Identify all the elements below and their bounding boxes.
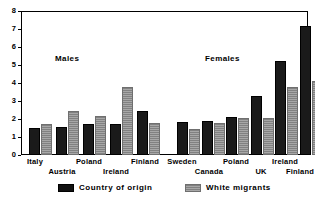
bar-country-of-origin: [110, 124, 121, 156]
bar-white-migrants: [149, 123, 160, 155]
y-tick-label: 8: [12, 7, 16, 15]
bar-group: [110, 11, 134, 155]
panel-label-females: Females: [205, 54, 240, 63]
bar-white-migrants: [287, 87, 298, 155]
x-axis-labels: ItalyAustriaPolandIrelandFinlandSwedenCa…: [0, 156, 315, 178]
legend-swatch-migrant: [185, 184, 201, 192]
bar-white-migrants: [263, 118, 274, 155]
y-tick-label: 3: [12, 97, 16, 105]
bars-container: [22, 11, 307, 155]
x-axis-label: Ireland: [272, 157, 298, 166]
bar-group: [251, 11, 275, 155]
legend-item: Country of origin: [58, 183, 152, 192]
y-tick-label: 5: [12, 61, 16, 69]
bar-white-migrants: [41, 124, 52, 156]
bar-group: [29, 11, 53, 155]
bar-white-migrants: [95, 116, 106, 155]
panel-label-males: Males: [55, 54, 79, 63]
bar-country-of-origin: [251, 96, 262, 155]
bar-white-migrants: [68, 111, 79, 155]
bar-country-of-origin: [202, 121, 213, 155]
legend-label: Country of origin: [79, 183, 152, 192]
x-axis-label: Poland: [223, 157, 249, 166]
bar-country-of-origin: [177, 122, 188, 155]
bar-group: [177, 11, 201, 155]
y-tick-label: 7: [12, 25, 16, 33]
bar-group: [300, 11, 316, 155]
x-axis-label: Austria: [48, 167, 75, 176]
x-axis-label: Sweden: [167, 157, 197, 166]
x-axis-label: Finland: [131, 157, 159, 166]
x-axis-label: Ireland: [103, 167, 129, 176]
y-tick-label: 6: [12, 43, 16, 51]
bar-white-migrants: [214, 123, 225, 155]
y-tick-label: 4: [12, 79, 16, 87]
bar-white-migrants: [122, 87, 133, 155]
y-axis: 876543210: [0, 4, 19, 162]
bar-country-of-origin: [29, 128, 40, 155]
bar-country-of-origin: [275, 61, 286, 155]
bar-white-migrants: [312, 81, 316, 155]
chart-legend: Country of originWhite migrants: [0, 183, 315, 199]
bar-group: [83, 11, 107, 155]
bar-white-migrants: [238, 118, 249, 155]
x-axis-label: Poland: [76, 157, 102, 166]
legend-label: White migrants: [206, 183, 271, 192]
bar-group: [275, 11, 299, 155]
bar-country-of-origin: [56, 127, 67, 155]
bar-group: [202, 11, 226, 155]
bar-chart: 876543210 Males Females ItalyAustriaPola…: [0, 0, 315, 202]
bar-white-migrants: [189, 129, 200, 155]
legend-swatch-origin: [58, 184, 74, 192]
legend-item: White migrants: [185, 183, 271, 192]
bar-country-of-origin: [300, 26, 311, 155]
bar-group: [56, 11, 80, 155]
bar-group: [226, 11, 250, 155]
bar-country-of-origin: [137, 111, 148, 155]
bar-country-of-origin: [83, 124, 94, 155]
bar-group: [137, 11, 161, 155]
x-axis-label: Canada: [195, 167, 223, 176]
x-axis-label: Italy: [27, 157, 43, 166]
bar-country-of-origin: [226, 117, 237, 155]
y-tick-label: 1: [12, 133, 16, 141]
x-axis-label: UK: [255, 167, 266, 176]
y-tick-label: 2: [12, 115, 16, 123]
x-axis-label: Finland: [286, 167, 314, 176]
